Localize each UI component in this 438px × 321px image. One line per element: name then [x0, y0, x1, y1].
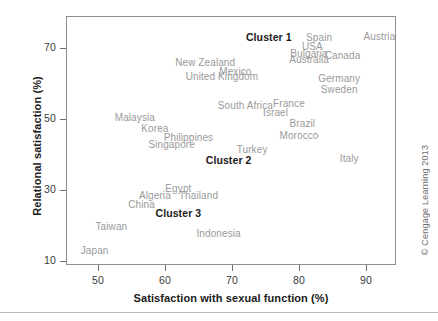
y-axis-tick-70: [60, 48, 66, 49]
data-point-label: United Kingdom: [186, 71, 259, 82]
data-point-label: Italy: [340, 153, 359, 164]
cluster-annotation: Cluster 2: [206, 154, 252, 166]
x-axis-tick-label-90: 90: [351, 274, 381, 286]
copyright-credit: © Cengage Learning 2013: [420, 120, 430, 280]
x-axis-tick-label-50: 50: [83, 274, 113, 286]
data-point-label: Morocco: [279, 129, 318, 140]
y-axis-tick-30: [60, 190, 66, 191]
y-axis-tick-10: [60, 261, 66, 262]
data-point-label: Israel: [263, 106, 288, 117]
x-axis-tick-60: [165, 265, 166, 271]
x-axis-tick-label-60: 60: [150, 274, 180, 286]
data-point-label: Austria: [363, 30, 395, 41]
figure-bottom-rule: [0, 312, 438, 313]
data-point-label: Brazil: [290, 117, 316, 128]
data-point-label: Malaysia: [115, 112, 155, 123]
scatter-plot-figure: 705030105060708090 AustriaSpainUSABulgar…: [0, 0, 438, 321]
y-axis-tick-label-10: 10: [34, 254, 56, 266]
data-point-label: China: [128, 199, 155, 210]
x-axis-tick-80: [299, 265, 300, 271]
x-axis-tick-70: [232, 265, 233, 271]
x-axis-tick-label-80: 80: [284, 274, 314, 286]
data-point-label: Canada: [325, 50, 361, 61]
data-point-label: Germany: [318, 73, 360, 84]
cluster-annotation: Cluster 3: [155, 207, 201, 219]
data-point-label: Singapore: [148, 138, 195, 149]
y-axis-title: Relational satisfaction (%): [31, 46, 43, 246]
data-point-label: Sweden: [321, 83, 358, 94]
x-axis-tick-90: [366, 265, 367, 271]
data-point-label: Indonesia: [196, 227, 240, 238]
data-point-label: Japan: [81, 245, 109, 256]
x-axis-title: Satisfaction with sexual function (%): [66, 292, 396, 304]
y-axis-tick-50: [60, 119, 66, 120]
x-axis-tick-50: [98, 265, 99, 271]
x-axis-tick-label-70: 70: [217, 274, 247, 286]
data-point-label: Thailand: [179, 190, 218, 201]
data-point-label: Taiwan: [96, 220, 128, 231]
cluster-annotation: Cluster 1: [246, 31, 292, 43]
data-point-label: Australia: [289, 53, 329, 64]
